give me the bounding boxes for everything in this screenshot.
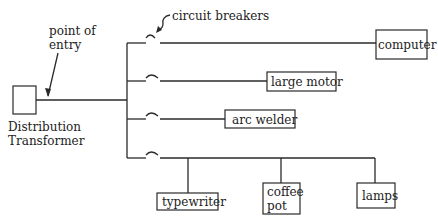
circuit-breaker-icon [146,35,155,38]
large-motor-label: large motor [271,75,343,89]
branch-4: typewriter coffee pot lamps [127,152,398,214]
circuit-breakers-arrow-icon [156,15,170,33]
coffee-pot-label-line2: pot [267,199,287,213]
distribution-diagram: Distribution Transformer point of entry … [0,0,438,223]
branch-1: computer [127,30,437,59]
branch-2: large motor [127,72,343,91]
transformer-label-line1: Distribution [8,120,81,134]
lamps-label: lamps [362,189,398,203]
circuit-breaker-icon [146,113,158,116]
coffee-pot-label-line1: coffee [267,185,304,199]
arc-welder-label: arc welder [232,113,297,127]
transformer-box [13,86,36,114]
typewriter-label: typewriter [162,195,226,209]
point-of-entry-arrow-icon [45,53,58,97]
transformer-label-line2: Transformer [8,134,85,148]
computer-label: computer [378,38,437,52]
circuit-breakers-label: circuit breakers [172,9,269,23]
point-of-entry-label-line1: point of [49,24,97,38]
circuit-breaker-icon [146,75,158,78]
point-of-entry-label-line2: entry [49,38,81,52]
branch-3: arc welder [127,110,297,128]
circuit-breaker-icon [146,152,158,155]
